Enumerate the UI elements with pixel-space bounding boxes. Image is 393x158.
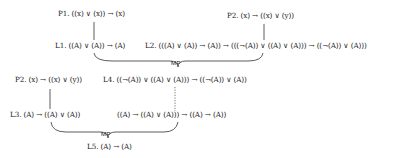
node-l4-equivalent: ((A) → ((A) ∨ (A))) → ((A) → (A)) xyxy=(117,110,226,119)
node-l2: L2. (((A) ∨ (A)) → (A)) → (((¬(A)) ∨ ((A… xyxy=(145,41,367,50)
mp-brace-bottom xyxy=(51,122,178,138)
node-l1: L1. ((A) ∨ (A)) → (A) xyxy=(55,41,125,50)
node-l4: L4. ((¬(A)) ∨ ((A) ∨ (A))) → ((¬(A)) ∨ (… xyxy=(103,75,247,84)
node-p2-axiom-top: P2. (x) → ((x) ∨ (y)) xyxy=(227,11,294,20)
mp-label-top: MP xyxy=(171,59,180,66)
node-l5: L5. (A) → (A) xyxy=(87,142,132,151)
mp-label-bottom: MP xyxy=(101,130,110,137)
node-l3: L3. (A) → ((A) ∨ (A)) xyxy=(10,110,80,119)
node-p2-axiom-mid: P2. (x) → ((x) ∨ (y)) xyxy=(15,75,82,84)
node-p1-axiom: P1. ((x) ∨ (x)) → (x) xyxy=(58,9,125,18)
